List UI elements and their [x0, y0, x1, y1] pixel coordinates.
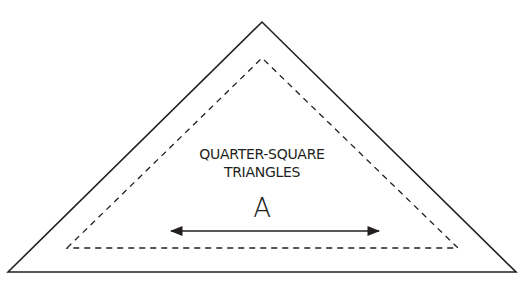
template-title-line2: TRIANGLES — [223, 164, 301, 180]
piece-label: A — [253, 193, 271, 223]
quarter-square-triangle-template: QUARTER-SQUARE TRIANGLES A — [0, 0, 525, 283]
template-title-line1: QUARTER-SQUARE — [199, 146, 324, 162]
